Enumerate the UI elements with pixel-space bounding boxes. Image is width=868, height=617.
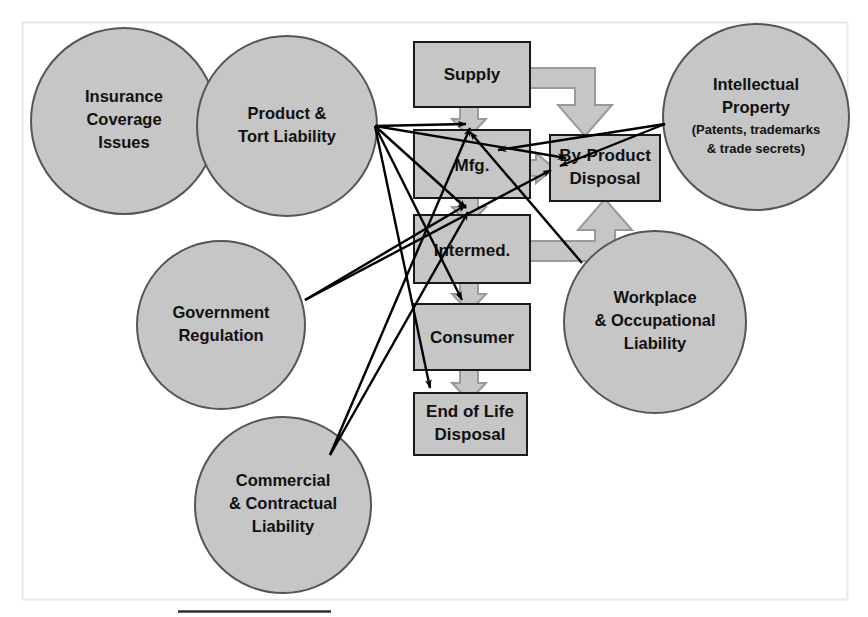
box-label-line: By-Product xyxy=(559,146,651,165)
circle-label-line: Tort Liability xyxy=(238,127,337,145)
box-label-line: Disposal xyxy=(570,169,641,188)
circle-government-regulation[interactable]: Government Regulation xyxy=(137,241,305,409)
circle-product-tort-liability[interactable]: Product & Tort Liability xyxy=(197,36,377,216)
circle-sublabel-line: (Patents, trademarks xyxy=(692,122,821,137)
box-end-of-life[interactable]: End of Life Disposal xyxy=(414,393,527,455)
circle-label-line: Product & xyxy=(248,104,327,122)
circle-label-line: Property xyxy=(722,98,791,116)
box-label-line: Supply xyxy=(444,65,501,84)
circle-label-line: Coverage xyxy=(86,110,161,128)
box-label-line: Mfg. xyxy=(455,156,490,175)
diagram-canvas: Insurance Coverage Issues Product & Tort… xyxy=(0,0,868,617)
product-lifecycle-risk-diagram: Insurance Coverage Issues Product & Tort… xyxy=(0,0,868,617)
box-consumer[interactable]: Consumer xyxy=(414,304,530,370)
circle-label-line: Government xyxy=(172,303,270,321)
circle-label-line: Regulation xyxy=(178,326,263,344)
box-supply[interactable]: Supply xyxy=(414,42,530,107)
box-mfg[interactable]: Mfg. xyxy=(414,130,530,198)
circle-label-line: Liability xyxy=(252,517,315,535)
circle-insurance-coverage-issues[interactable]: Insurance Coverage Issues xyxy=(31,28,217,214)
circle-sublabel-line: & trade secrets) xyxy=(707,141,805,156)
box-by-product-disposal[interactable]: By-Product Disposal xyxy=(550,135,660,201)
circle-label-line: Workplace xyxy=(613,288,696,306)
box-label-line: Disposal xyxy=(435,425,506,444)
circle-workplace-occupational-liability[interactable]: Workplace & Occupational Liability xyxy=(564,231,746,413)
circle-commercial-contractual-liability[interactable]: Commercial & Contractual Liability xyxy=(195,417,371,593)
circle-label-line: Commercial xyxy=(236,471,330,489)
circle-intellectual-property[interactable]: Intellectual Property (Patents, trademar… xyxy=(663,24,849,210)
circle-label-line: & Contractual xyxy=(229,494,337,512)
circle-label-line: & Occupational xyxy=(594,311,715,329)
circle-label-line: Issues xyxy=(98,133,149,151)
circle-label-line: Liability xyxy=(624,334,687,352)
box-label-line: Consumer xyxy=(430,328,514,347)
circle-label-line: Intellectual xyxy=(713,75,799,93)
box-label-line: End of Life xyxy=(426,402,514,421)
circle-label-line: Insurance xyxy=(85,87,163,105)
